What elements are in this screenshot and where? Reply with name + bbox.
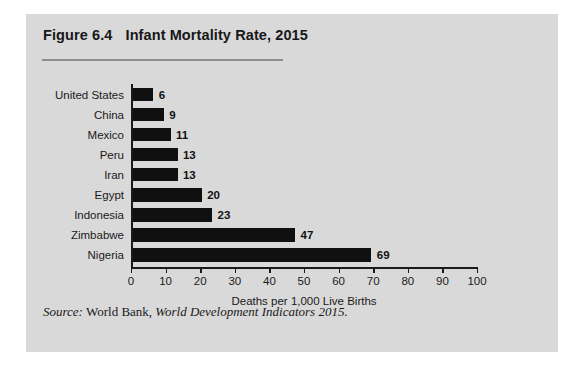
bar-value-label: 6	[159, 89, 165, 101]
bar-row: Iran13	[131, 165, 477, 185]
bar-row: Egypt20	[131, 185, 477, 205]
bar	[133, 88, 154, 102]
x-axis-tick-label: 40	[263, 275, 276, 287]
x-axis-tick	[200, 268, 201, 273]
bar-value-label: 13	[183, 169, 196, 181]
figure-number: Figure 6.4	[43, 27, 113, 43]
bar-value-label: 47	[301, 229, 314, 241]
x-axis-tick-label: 20	[194, 275, 207, 287]
x-axis-tick-label: 90	[436, 275, 449, 287]
x-axis-tick	[131, 268, 132, 273]
x-axis-tick-label: 0	[128, 275, 134, 287]
bar-row: China9	[131, 105, 477, 125]
bar-category-label: Nigeria	[88, 249, 124, 261]
x-axis-tick-label: 70	[367, 275, 380, 287]
x-axis-tick-label: 10	[159, 275, 172, 287]
bar	[133, 148, 178, 162]
x-axis-tick	[235, 268, 236, 273]
bar-row: Zimbabwe47	[131, 225, 477, 245]
source-publisher: World Bank,	[86, 304, 152, 319]
bar	[133, 168, 178, 182]
bar-value-label: 11	[176, 129, 188, 141]
bar	[133, 188, 202, 202]
bar	[133, 248, 372, 262]
x-axis-tick-label: 60	[332, 275, 345, 287]
bar-category-label: Zimbabwe	[71, 229, 124, 241]
bar-category-label: United States	[55, 89, 124, 101]
source-label: Source:	[43, 304, 83, 319]
bar-category-label: Peru	[100, 149, 124, 161]
x-axis-tick-label: 80	[401, 275, 414, 287]
title-divider	[42, 59, 283, 61]
figure-panel: Figure 6.4Infant Mortality Rate, 2015 Un…	[26, 14, 558, 352]
bar-category-label: China	[94, 109, 124, 121]
bar-row: Peru13	[131, 145, 477, 165]
bar-value-label: 20	[207, 189, 220, 201]
bar-category-label: Egypt	[95, 189, 124, 201]
bar-value-label: 13	[183, 149, 196, 161]
bar-value-label: 69	[377, 249, 390, 261]
x-axis-tick-label: 100	[467, 275, 486, 287]
x-axis-tick	[442, 268, 443, 273]
bar	[133, 208, 213, 222]
x-axis-tick	[408, 268, 409, 273]
bar-row: Indonesia23	[131, 205, 477, 225]
figure-title-text: Infant Mortality Rate, 2015	[126, 27, 308, 43]
x-axis-tick-label: 30	[228, 275, 241, 287]
bar	[133, 228, 296, 242]
x-axis-tick	[269, 268, 270, 273]
source-publication: World Development Indicators 2015.	[155, 304, 347, 319]
bar-value-label: 23	[218, 209, 231, 221]
bar-row: Nigeria69	[131, 245, 477, 265]
bar-chart: United States6China9Mexico11Peru13Iran13…	[26, 72, 558, 297]
x-axis-tick	[339, 268, 340, 273]
x-axis-tick-label: 50	[298, 275, 311, 287]
figure-title: Figure 6.4Infant Mortality Rate, 2015	[43, 27, 308, 43]
bar-category-label: Mexico	[88, 129, 124, 141]
bar-row: Mexico11	[131, 125, 477, 145]
plot-area: United States6China9Mexico11Peru13Iran13…	[131, 84, 477, 266]
bar-category-label: Indonesia	[74, 209, 124, 221]
x-axis-tick	[166, 268, 167, 273]
bar	[133, 108, 164, 122]
x-axis-tick	[373, 268, 374, 273]
bar-row: United States6	[131, 85, 477, 105]
source-note: Source: World Bank, World Development In…	[43, 304, 348, 320]
bar-category-label: Iran	[104, 169, 124, 181]
bar	[133, 128, 171, 142]
x-axis-tick	[304, 268, 305, 273]
x-axis-tick	[477, 268, 478, 273]
bar-value-label: 9	[169, 109, 175, 121]
